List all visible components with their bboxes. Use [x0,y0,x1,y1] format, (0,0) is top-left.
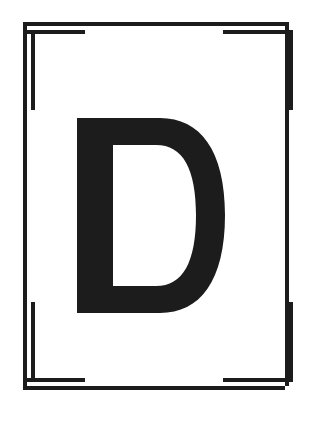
glyph-layer [0,0,311,421]
capital-letter-d-glyph [0,0,311,421]
letter-specimen-card: D Black capital letter D on a white card… [0,0,311,421]
